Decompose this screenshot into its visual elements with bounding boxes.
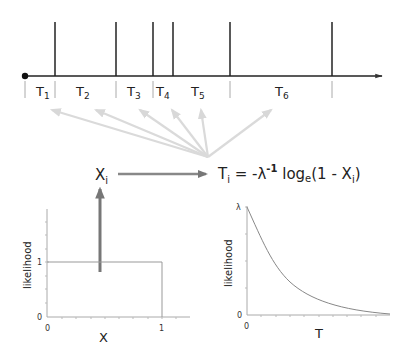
formula: Ti = -λ-1 loge(1 - Xi) — [217, 163, 361, 185]
y-axis-title: likelihood — [223, 239, 234, 287]
sample-label: Xi — [95, 166, 108, 186]
interval-label-t1: T1 — [35, 84, 50, 101]
fan-arrow — [52, 110, 208, 157]
uniform-density-line — [47, 262, 162, 317]
interval-labels: T1 T2 T3 T4 T5 T6 — [35, 84, 289, 101]
x-tick-label: 1 — [159, 324, 164, 333]
exponential-density-curve — [247, 207, 390, 314]
fan-arrows — [52, 110, 271, 157]
timeline: T1 T2 T3 T4 T5 T6 — [22, 22, 382, 101]
fan-arrow — [208, 110, 271, 157]
event-spikes — [55, 22, 332, 76]
uniform-plot: 1 0 0 1 likelihood X — [22, 209, 190, 345]
x-axis-title: T — [314, 326, 323, 341]
interval-label-t6: T6 — [274, 84, 289, 101]
interval-label-t2: T2 — [75, 84, 90, 101]
x-tick-label: 0 — [45, 324, 50, 333]
interval-label-t5: T5 — [190, 84, 205, 101]
interval-label-t3: T3 — [126, 84, 141, 101]
x-tick-label: 0 — [244, 322, 249, 331]
exponential-plot: λ 0 0 likelihood T — [223, 203, 390, 341]
y-tick-label: 0 — [37, 313, 42, 322]
x-axis-title: X — [99, 330, 108, 345]
y-tick-label-lambda: λ — [236, 203, 241, 212]
y-tick-label: 1 — [37, 258, 42, 267]
y-tick-label: 0 — [237, 311, 242, 320]
diagram-canvas: T1 T2 T3 T4 T5 T6 Xi Ti = -λ-1 loge(1 - … — [0, 0, 410, 361]
interval-label-t4: T4 — [155, 84, 170, 101]
origin-dot — [22, 73, 28, 79]
y-axis-title: likelihood — [22, 241, 33, 289]
